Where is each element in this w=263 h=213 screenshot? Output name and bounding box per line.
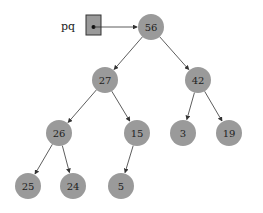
edge-27-26 — [68, 90, 96, 123]
edge-56-42 — [160, 37, 189, 70]
node-3: 3 — [170, 120, 196, 146]
binary-heap-diagram: pq 562742261531925245 — [0, 0, 263, 213]
node-label: 25 — [22, 181, 35, 192]
node-26: 26 — [46, 120, 72, 146]
node-25: 25 — [15, 173, 41, 199]
node-56: 56 — [138, 14, 164, 40]
edge-26-24 — [62, 146, 69, 173]
edge-27-15 — [112, 91, 130, 121]
node-label: 3 — [180, 128, 186, 139]
node-label: 42 — [192, 75, 205, 86]
node-19: 19 — [216, 120, 242, 146]
tree-edges — [35, 37, 222, 174]
node-label: 26 — [53, 128, 66, 139]
node-15: 15 — [124, 120, 150, 146]
node-label: 5 — [118, 181, 124, 192]
node-27: 27 — [92, 67, 118, 93]
edge-15-5 — [125, 145, 133, 172]
node-label: 27 — [99, 75, 112, 86]
pq-label: pq — [61, 20, 75, 33]
edge-26-25 — [35, 144, 52, 174]
node-5: 5 — [108, 173, 134, 199]
node-24: 24 — [60, 173, 86, 199]
node-label: 19 — [223, 128, 236, 139]
node-label: 24 — [67, 181, 80, 192]
edge-42-19 — [205, 91, 222, 121]
node-label: 15 — [131, 128, 144, 139]
pq-pointer: pq — [61, 15, 137, 35]
node-42: 42 — [185, 67, 211, 93]
node-label: 56 — [145, 22, 158, 33]
tree-nodes: 562742261531925245 — [15, 14, 242, 199]
edge-56-27 — [114, 37, 142, 70]
edge-42-3 — [187, 93, 195, 120]
